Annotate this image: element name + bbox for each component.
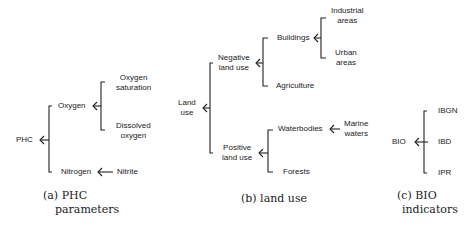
caption-c-line1: (c) BIO [397,189,437,203]
caption-b: (b) land use [241,192,307,206]
node-buildings: Buildings [277,33,309,43]
node-forests: Forests [283,167,310,177]
node-phc: PHC [16,135,33,145]
node-oxygen: Oxygen [58,101,86,111]
figure: PHC Oxygen Oxygen saturation Dissolved o… [0,0,474,234]
node-oxygen-saturation: Oxygen saturation [116,73,151,93]
node-ibd: IBD [438,137,451,147]
node-industrial-areas: Industrial areas [331,6,363,26]
caption-a-line1: (a) PHC [43,189,87,203]
node-negative-land-use: Negative land use [218,53,250,73]
node-ipr: IPR [438,168,451,178]
node-bio: BIO [392,137,406,147]
caption-c-line2: indicators [402,203,458,217]
node-urban-areas: Urban areas [335,48,357,68]
node-ibgn: IBGN [438,106,458,116]
node-marine-waters: Marine waters [344,119,368,139]
caption-a-line2: parameters [55,203,119,217]
node-dissolved-oxygen: Dissolved oxygen [116,121,151,141]
node-nitrite: Nitrite [117,167,138,177]
node-land-use: Land use [178,98,196,118]
node-positive-land-use: Positive land use [222,143,252,163]
node-nitrogen: Nitrogen [61,167,91,177]
node-waterbodies: Waterbodies [278,124,323,134]
node-agriculture: Agriculture [276,81,314,91]
